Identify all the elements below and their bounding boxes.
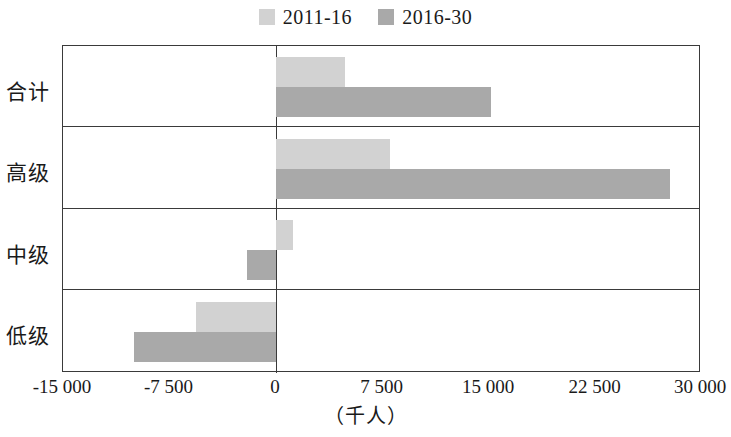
bar-chart: 2011-16 2016-30 合计 高级 中级 低级 -15 000 -7 5… — [0, 0, 731, 437]
legend-swatch-2016-30 — [378, 9, 394, 25]
xtick-0: -15 000 — [33, 377, 92, 396]
legend-entry-2016-30: 2016-30 — [378, 7, 472, 27]
xtick-1: -7 500 — [144, 377, 193, 396]
bar-high-2011-16 — [276, 139, 391, 169]
bar-medium-2011-16 — [276, 220, 293, 250]
xtick-4: 15 000 — [462, 377, 514, 396]
x-axis-title: （千人） — [0, 406, 731, 426]
plot-area — [62, 45, 700, 372]
legend-label-2016-30: 2016-30 — [402, 7, 472, 27]
xtick-5: 22 500 — [568, 377, 620, 396]
category-label-low: 低级 — [0, 326, 58, 347]
bar-low-2016-30 — [134, 332, 276, 362]
legend-swatch-2011-16 — [259, 9, 275, 25]
row-band-medium — [63, 209, 699, 290]
legend-label-2011-16: 2011-16 — [283, 7, 352, 27]
legend-entry-2011-16: 2011-16 — [259, 7, 352, 27]
category-label-total: 合计 — [0, 82, 58, 103]
xtick-6: 30 000 — [674, 377, 726, 396]
bar-high-2016-30 — [276, 169, 670, 199]
category-label-medium: 中级 — [0, 245, 58, 266]
xtick-2: 0 — [270, 377, 280, 396]
xtick-3: 7 500 — [360, 377, 403, 396]
chart-legend: 2011-16 2016-30 — [0, 4, 731, 30]
bar-low-2011-16 — [196, 302, 275, 332]
bar-medium-2016-30 — [247, 250, 275, 280]
bar-total-2011-16 — [276, 57, 345, 87]
category-label-high: 高级 — [0, 163, 58, 184]
bar-total-2016-30 — [276, 87, 492, 117]
